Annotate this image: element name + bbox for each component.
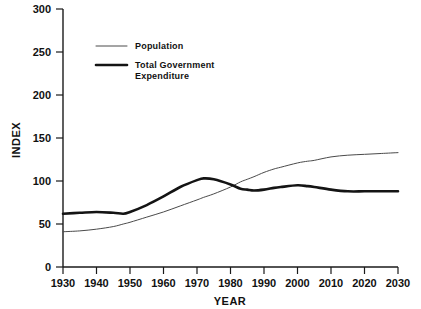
x-tick-label-2020: 2020 xyxy=(352,277,376,289)
x-tick-label-1930: 1930 xyxy=(51,277,75,289)
legend-label-population: Population xyxy=(135,41,184,51)
y-tick-label-200: 200 xyxy=(33,89,51,101)
y-tick-label-250: 250 xyxy=(33,46,51,58)
y-tick-label-0: 0 xyxy=(45,261,51,273)
x-tick-label-1980: 1980 xyxy=(218,277,242,289)
x-tick-label-1970: 1970 xyxy=(185,277,209,289)
legend-label-total-government-expenditure-line2: Expenditure xyxy=(135,71,189,81)
x-tick-label-2030: 2030 xyxy=(386,277,410,289)
y-tick-label-100: 100 xyxy=(33,175,51,187)
y-tick-label-150: 150 xyxy=(33,132,51,144)
x-tick-label-1960: 1960 xyxy=(151,277,175,289)
x-tick-label-2010: 2010 xyxy=(319,277,343,289)
y-axis-title: INDEX xyxy=(10,122,22,158)
x-tick-label-1990: 1990 xyxy=(252,277,276,289)
x-axis-title: YEAR xyxy=(214,295,247,307)
y-tick-label-50: 50 xyxy=(39,218,51,230)
y-tick-label-300: 300 xyxy=(33,3,51,15)
x-tick-label-1940: 1940 xyxy=(84,277,108,289)
x-tick-label-2000: 2000 xyxy=(285,277,309,289)
chart-container: 300 250 200 150 100 50 0 1930 1940 19 xyxy=(0,0,421,309)
legend-label-total-government-expenditure-line1: Total Government xyxy=(135,60,215,70)
x-axis-tick-labels: 1930 1940 1950 1960 1970 1980 1990 2000 … xyxy=(51,277,410,289)
index-vs-year-line-chart: 300 250 200 150 100 50 0 1930 1940 19 xyxy=(0,0,421,309)
x-tick-label-1950: 1950 xyxy=(118,277,142,289)
